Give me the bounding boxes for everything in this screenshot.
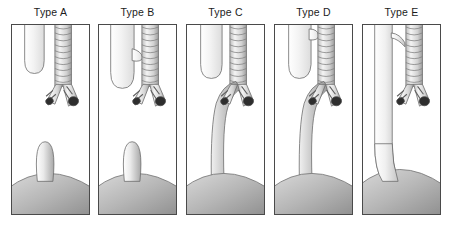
panel-type-b xyxy=(98,24,177,215)
anatomy-diagram-type-a xyxy=(12,25,89,214)
panel-label-type-a: Type A xyxy=(11,6,90,18)
tef-classification-figure: Type A xyxy=(0,0,459,225)
distal-esophageal-stump xyxy=(123,142,141,182)
right-bronchus-lumen xyxy=(419,97,429,106)
distal-esophageal-stump xyxy=(36,142,54,182)
anatomy-diagram-type-c xyxy=(187,25,264,214)
anatomy-diagram-type-e xyxy=(363,25,440,214)
stomach xyxy=(275,173,352,214)
panel-label-type-d: Type D xyxy=(274,6,353,18)
panel-type-e xyxy=(362,24,441,215)
panel-label-type-e: Type E xyxy=(362,6,441,18)
right-bronchus-lumen xyxy=(243,97,253,106)
panel-type-a xyxy=(11,24,90,215)
stomach xyxy=(363,169,440,214)
upper-esophageal-pouch xyxy=(201,25,222,78)
proximal-fistula xyxy=(309,29,319,40)
upper-esophageal-pouch xyxy=(25,25,44,73)
panel-label-type-c: Type C xyxy=(186,6,265,18)
right-bronchus-lumen xyxy=(68,97,78,106)
upper-esophageal-pouch xyxy=(289,25,311,78)
proximal-fistula xyxy=(132,49,143,61)
stomach xyxy=(187,173,264,214)
anatomy-diagram-type-b xyxy=(99,25,176,214)
right-bronchus-lumen xyxy=(331,97,341,106)
panel-label-type-b: Type B xyxy=(98,6,177,18)
upper-esophageal-pouch xyxy=(111,25,134,88)
right-bronchus-lumen xyxy=(155,97,165,106)
h-type-fistula xyxy=(391,33,405,47)
panel-type-c xyxy=(186,24,265,215)
panel-type-d xyxy=(274,24,353,215)
anatomy-diagram-type-d xyxy=(275,25,352,214)
